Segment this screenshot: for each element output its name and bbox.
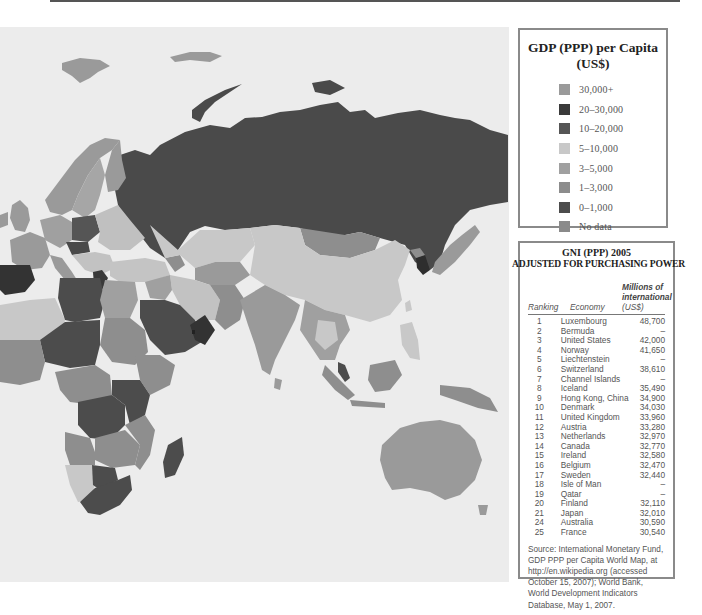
legend-swatch <box>559 143 570 154</box>
table-header: Ranking Economy Millions of internationa… <box>528 270 665 315</box>
top-rule <box>50 0 680 2</box>
legend-label: 0–1,000 <box>579 202 613 213</box>
legend-item: 3–5,000 <box>559 158 666 178</box>
france <box>10 232 50 270</box>
legend-swatch <box>559 202 570 213</box>
legend-swatch <box>559 221 570 232</box>
header-value: Millions of international (US$) <box>622 282 672 312</box>
table-title: GNI (PPP) 2005 ADJUSTED FOR PURCHASING P… <box>520 247 673 269</box>
cell-rank: 25 <box>528 528 551 538</box>
legend-swatch <box>559 123 570 134</box>
table-title-line2: ADJUSTED FOR PURCHASING POWER <box>512 258 681 269</box>
cell-value: 30,540 <box>631 528 665 538</box>
legend-label: 10–20,000 <box>579 123 623 134</box>
table-row: 25France30,540 <box>528 528 665 538</box>
map-svg <box>0 27 509 582</box>
legend-swatch <box>559 182 570 193</box>
header-value-line3: (US$) <box>622 302 644 312</box>
cell-economy: France <box>551 528 631 538</box>
legend-title-line1: GDP (PPP) per Capita <box>520 40 666 56</box>
legend-item: 0–1,000 <box>559 198 666 218</box>
legend-title-line2: (US$) <box>520 56 666 72</box>
table-row: 1Luxembourg48,700 <box>528 317 665 327</box>
egypt <box>100 280 138 318</box>
legend-item: No data <box>559 217 666 237</box>
legend-items: 30,000+ 20–30,000 10–20,000 5–10,000 3–5… <box>520 80 666 237</box>
header-economy: Economy <box>570 302 605 312</box>
header-value-line1: Millions of <box>622 282 672 292</box>
west-africa <box>0 340 45 385</box>
legend-item: 30,000+ <box>559 80 666 100</box>
legend-swatch <box>559 84 570 95</box>
legend-swatch <box>559 163 570 174</box>
legend-title: GDP (PPP) per Capita (US$) <box>520 40 666 72</box>
gni-table: GNI (PPP) 2005 ADJUSTED FOR PURCHASING P… <box>518 241 675 579</box>
header-value-line2: international <box>622 292 672 302</box>
source-note: Source: International Monetary Fund, GDP… <box>528 544 665 611</box>
legend-item: 5–10,000 <box>559 139 666 159</box>
libya <box>58 278 105 322</box>
table-row: 18Isle of Man– <box>528 480 665 490</box>
table-body: 1Luxembourg48,7002Bermuda–3United States… <box>528 317 665 538</box>
legend-item: 1–3,000 <box>559 178 666 198</box>
legend-swatch <box>559 104 570 115</box>
legend-label: 30,000+ <box>579 84 614 95</box>
legend-label: No data <box>579 221 612 232</box>
table-title-line1: GNI (PPP) 2005 <box>520 247 673 258</box>
legend: GDP (PPP) per Capita (US$) 30,000+ 20–30… <box>518 28 668 228</box>
legend-item: 10–20,000 <box>559 119 666 139</box>
legend-label: 1–3,000 <box>579 182 613 193</box>
legend-item: 20–30,000 <box>559 100 666 120</box>
legend-label: 5–10,000 <box>579 143 618 154</box>
legend-label: 3–5,000 <box>579 163 613 174</box>
header-ranking: Ranking <box>528 302 558 312</box>
qatar <box>192 330 195 334</box>
world-map <box>0 27 509 582</box>
legend-label: 20–30,000 <box>579 104 623 115</box>
